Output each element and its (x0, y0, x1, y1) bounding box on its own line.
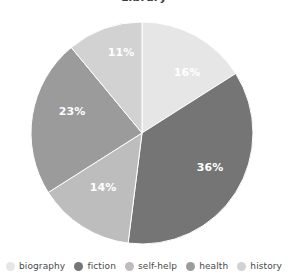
chart-legend: biographyfictionself-helphealthhistory (0, 256, 288, 276)
legend-label: health (199, 261, 228, 271)
legend-item-health[interactable]: health (186, 261, 228, 271)
legend-swatch-icon (237, 262, 246, 271)
pie-slice-label-biography: 16% (174, 66, 200, 79)
pie-slice-label-fiction: 36% (197, 161, 223, 174)
legend-swatch-icon (125, 262, 134, 271)
legend-label: fiction (87, 261, 116, 271)
pie-slice-label-self-help: 14% (90, 181, 116, 194)
legend-label: self-help (138, 261, 177, 271)
pie-slice-group (31, 22, 253, 244)
pie-svg: 16%36%14%23%11% (0, 0, 288, 250)
pie-slice-label-history: 11% (108, 46, 134, 59)
legend-label: biography (19, 261, 65, 271)
legend-item-history[interactable]: history (237, 261, 282, 271)
legend-item-self-help[interactable]: self-help (125, 261, 177, 271)
legend-swatch-icon (186, 262, 195, 271)
legend-label: history (250, 261, 282, 271)
legend-item-fiction[interactable]: fiction (74, 261, 116, 271)
legend-swatch-icon (6, 262, 15, 271)
pie-chart-figure: Library 16%36%14%23%11% biographyfiction… (0, 0, 288, 276)
pie-plot-area: 16%36%14%23%11% (0, 0, 288, 250)
legend-swatch-icon (74, 262, 83, 271)
pie-slice-label-health: 23% (59, 105, 85, 118)
legend-item-biography[interactable]: biography (6, 261, 65, 271)
